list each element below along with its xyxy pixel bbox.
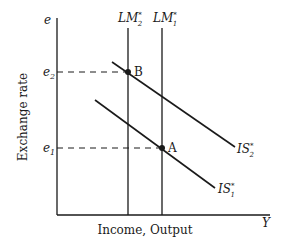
point-b-label: B — [134, 65, 143, 79]
point-a-label: A — [167, 141, 177, 155]
y-axis-label: Exchange rate — [16, 73, 30, 161]
x-axis-symbol: Y — [262, 216, 271, 230]
x-axis-label: Income, Output — [97, 223, 192, 237]
is1-label: IS*1 — [217, 182, 235, 199]
y-axis-symbol: e — [44, 13, 51, 27]
e2-label: e2 — [43, 65, 55, 81]
is-lm-diagram: B A e e2 e1 Exchange rate Income, Output… — [0, 0, 284, 249]
point-a-marker — [159, 145, 165, 151]
is1-curve — [95, 100, 215, 188]
is2-label: IS*2 — [236, 142, 254, 159]
point-b-marker — [125, 69, 131, 75]
is2-curve — [112, 62, 235, 147]
lm2-label: LM*2 — [117, 11, 143, 28]
e1-label: e1 — [43, 141, 55, 157]
lm1-label: LM*1 — [152, 11, 177, 28]
